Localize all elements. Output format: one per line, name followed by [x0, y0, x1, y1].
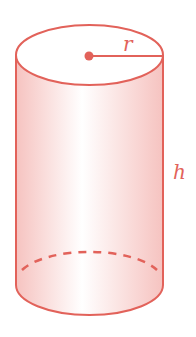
- radius-label: r: [123, 32, 133, 56]
- center-point: [85, 52, 94, 61]
- cylinder-body: [16, 55, 163, 315]
- height-label: h: [173, 160, 186, 184]
- cylinder-diagram: [0, 0, 196, 337]
